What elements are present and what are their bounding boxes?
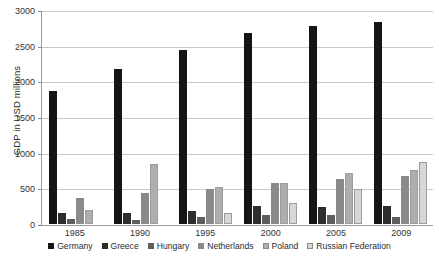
legend-item-netherlands[interactable]: Netherlands [198, 241, 253, 251]
bar-germany-1995 [179, 50, 187, 224]
y-tick-mark [38, 225, 42, 226]
bar-hungary-1985 [67, 219, 75, 224]
bar-greece-2005 [318, 207, 326, 224]
y-tick-mark [38, 82, 42, 83]
bar-netherlands-2009 [401, 176, 409, 224]
bar-greece-1995 [188, 211, 196, 224]
legend-item-greece[interactable]: Greece [102, 241, 139, 251]
bar-netherlands-1990 [141, 193, 149, 224]
bar-group-1985 [43, 11, 108, 224]
bar-netherlands-1985 [76, 198, 84, 224]
bar-group-2005 [303, 11, 368, 224]
x-tick-label-1990: 1990 [107, 228, 172, 238]
x-tick-label-1995: 1995 [173, 228, 238, 238]
y-tick-label: 1500 [15, 113, 35, 123]
bar-netherlands-1995 [206, 189, 214, 224]
y-tick-label: 0 [30, 220, 35, 230]
y-tick-label: 1000 [15, 149, 35, 159]
legend-label: Poland [272, 241, 299, 251]
bar-netherlands-2000 [271, 183, 279, 224]
bar-russian-federation-2005 [354, 189, 362, 224]
legend-label: Hungary [157, 241, 189, 251]
chart-legend: GermanyGreeceHungaryNetherlandsPolandRus… [0, 241, 439, 251]
bar-group-1990 [108, 11, 173, 224]
legend-item-germany[interactable]: Germany [48, 241, 92, 251]
x-axis-labels: 198519901995200020052009 [42, 228, 434, 238]
bars-layer [43, 11, 433, 224]
x-tick-label-2009: 2009 [369, 228, 434, 238]
y-tick-label: 2000 [15, 77, 35, 87]
legend-swatch-icon [263, 243, 269, 249]
bar-poland-1995 [215, 187, 223, 224]
legend-swatch-icon [102, 243, 108, 249]
legend-item-hungary[interactable]: Hungary [148, 241, 189, 251]
bar-germany-1990 [114, 69, 122, 224]
legend-swatch-icon [198, 243, 204, 249]
bar-russian-federation-2009 [419, 162, 427, 224]
y-tick-mark [38, 118, 42, 119]
legend-swatch-icon [307, 243, 313, 249]
bar-hungary-2005 [327, 215, 335, 224]
legend-item-russian-federation[interactable]: Russian Federation [307, 241, 391, 251]
plot-area: 050010001500200025003000 [41, 11, 433, 226]
bar-hungary-1990 [132, 220, 140, 224]
bar-group-1995 [173, 11, 238, 224]
bar-hungary-2009 [392, 217, 400, 224]
bar-russian-federation-1995 [224, 213, 232, 224]
bar-greece-2000 [253, 206, 261, 224]
bar-germany-2005 [309, 26, 317, 224]
bar-germany-2000 [244, 33, 252, 224]
y-tick-label: 2500 [15, 42, 35, 52]
y-tick-mark [38, 47, 42, 48]
bar-poland-2000 [280, 183, 288, 224]
legend-swatch-icon [48, 243, 54, 249]
x-tick-label-2005: 2005 [303, 228, 368, 238]
y-tick-mark [38, 11, 42, 12]
bar-germany-1985 [49, 91, 57, 224]
bar-greece-1985 [58, 213, 66, 224]
bar-hungary-2000 [262, 215, 270, 224]
bar-group-2009 [368, 11, 433, 224]
legend-item-poland[interactable]: Poland [263, 241, 299, 251]
y-tick-label: 500 [20, 184, 35, 194]
x-tick-label-1985: 1985 [42, 228, 107, 238]
bar-poland-2005 [345, 173, 353, 224]
y-tick-label: 3000 [15, 6, 35, 16]
x-tick-label-2000: 2000 [238, 228, 303, 238]
y-tick-mark [38, 189, 42, 190]
legend-label: Netherlands [207, 241, 253, 251]
plot-frame: 050010001500200025003000 [41, 11, 433, 226]
bar-netherlands-2005 [336, 179, 344, 224]
bar-poland-1985 [85, 210, 93, 224]
bar-chart: GDP in USD millions 05001000150020002500… [0, 0, 439, 256]
bar-greece-1990 [123, 213, 131, 224]
bar-group-2000 [238, 11, 303, 224]
legend-swatch-icon [148, 243, 154, 249]
bar-hungary-1995 [197, 217, 205, 224]
legend-label: Russian Federation [316, 241, 391, 251]
bar-greece-2009 [383, 206, 391, 224]
bar-poland-1990 [150, 164, 158, 224]
y-tick-mark [38, 154, 42, 155]
legend-label: Germany [57, 241, 92, 251]
legend-label: Greece [111, 241, 139, 251]
bar-germany-2009 [374, 22, 382, 224]
bar-poland-2009 [410, 170, 418, 224]
bar-russian-federation-2000 [289, 203, 297, 224]
